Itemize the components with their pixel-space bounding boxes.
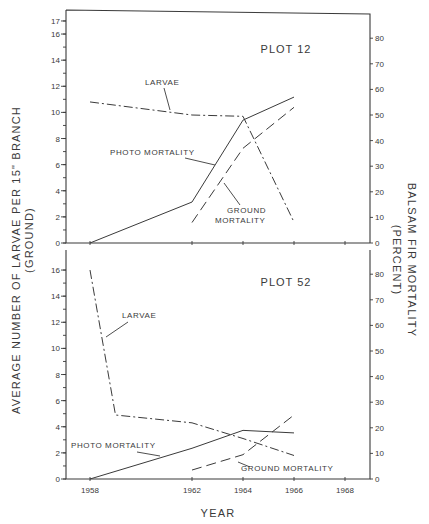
plot-52-x-axis: 19581962196419661968 [81, 477, 354, 495]
right-axis-subtitle: (PERCENT) [391, 225, 403, 296]
left-tick-label: 0 [56, 475, 61, 484]
right-tick-label: 10 [375, 213, 384, 222]
right-tick-label: 20 [375, 188, 384, 197]
left-tick-label: 10 [51, 344, 60, 353]
right-tick-label: 50 [375, 111, 384, 120]
plot-12-larvae-label: LARVAE [145, 78, 179, 87]
right-axis-title: BALSAM FIR MORTALITY [406, 183, 418, 337]
plot-12-photo-leader [185, 158, 215, 165]
left-tick-label: 4 [56, 187, 61, 196]
right-tick-label: 30 [375, 398, 384, 407]
left-tick-label: 12 [51, 318, 60, 327]
right-tick-label: 20 [375, 424, 384, 433]
left-tick-label: 14 [51, 56, 60, 65]
right-tick-label: 70 [375, 296, 384, 305]
plot-12-photo-label: PHOTO MORTALITY [110, 148, 195, 157]
left-axis-subtitle: (GROUND) [23, 207, 35, 273]
left-tick-label: 16 [51, 30, 60, 39]
right-tick-label: 80 [375, 270, 384, 279]
plot-52-left-axis: 0246810121416 [51, 266, 66, 484]
plot-12-ground-leader [224, 183, 240, 205]
plot-52-photo-leader [137, 452, 160, 456]
right-tick-label: 60 [375, 321, 384, 330]
larvae-line [90, 270, 294, 455]
left-tick-label: 2 [56, 449, 61, 458]
x-tick-label: 1966 [285, 486, 303, 495]
left-tick-label: 14 [51, 292, 60, 301]
left-tick-label: 0 [56, 239, 61, 248]
plot-12-frame [66, 10, 370, 243]
plot-12-right-axis: 01020304050607080 [370, 34, 384, 248]
left-tick-label: 16 [51, 266, 60, 275]
plot-52-ground-label: GROUND MORTALITY [241, 464, 333, 473]
right-tick-label: 60 [375, 85, 384, 94]
left-tick-label: 17 [51, 17, 60, 26]
right-tick-label: 0 [375, 239, 380, 248]
plot-12-left-axis: 024681012141617 [51, 17, 66, 248]
left-tick-label: 4 [56, 423, 61, 432]
left-tick-label: 2 [56, 213, 61, 222]
larvae-mortality-chart: 024681012141617 01020304050607080 PLOT 1… [0, 0, 429, 524]
left-tick-label: 12 [51, 82, 60, 91]
larvae-line [90, 102, 294, 222]
plot-12-title: PLOT 12 [261, 43, 312, 55]
left-tick-label: 8 [56, 371, 61, 380]
right-tick-label: 30 [375, 162, 384, 171]
x-tick-label: 1962 [183, 486, 201, 495]
left-tick-label: 10 [51, 108, 60, 117]
plot-52-title: PLOT 52 [261, 276, 312, 288]
right-tick-label: 50 [375, 347, 384, 356]
right-tick-label: 80 [375, 34, 384, 43]
plot-52-right-axis: 01020304050607080 [370, 270, 384, 484]
x-axis-title: YEAR [201, 507, 236, 519]
x-tick-label: 1964 [234, 486, 252, 495]
plot-52-photo-label: PHOTO MORTALITY [71, 441, 156, 450]
plot-12-panel: 024681012141617 01020304050607080 PLOT 1… [51, 10, 384, 248]
right-tick-label: 70 [375, 60, 384, 69]
plot-52-panel: 0246810121416 01020304050607080 19581962… [51, 250, 384, 495]
plot-52-larvae-leader [106, 322, 128, 337]
right-tick-label: 10 [375, 449, 384, 458]
right-tick-label: 40 [375, 137, 384, 146]
right-tick-label: 40 [375, 373, 384, 382]
left-axis-title: AVERAGE NUMBER OF LARVAE PER 15" BRANCH [10, 106, 22, 414]
right-tick-label: 0 [375, 475, 380, 484]
plot-12-ground-label: GROUND [227, 206, 266, 215]
plot-52-larvae-label: LARVAE [122, 311, 156, 320]
left-tick-label: 6 [56, 161, 61, 170]
x-tick-label: 1968 [336, 486, 354, 495]
left-tick-label: 6 [56, 397, 61, 406]
plot-12-mortality-label: MORTALITY [215, 216, 266, 225]
left-tick-label: 8 [56, 135, 61, 144]
plot-12-larvae-leader [164, 88, 170, 110]
x-tick-label: 1958 [81, 486, 99, 495]
